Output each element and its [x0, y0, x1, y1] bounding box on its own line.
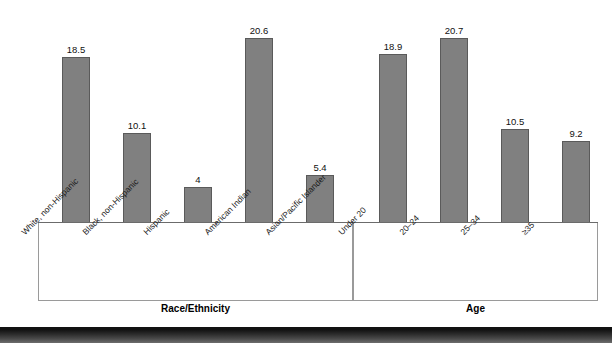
bar-value-label: 9.2 [569, 129, 582, 139]
bar-rect[interactable] [501, 129, 529, 223]
group-title-race-ethnicity: Race/Ethnicity [38, 303, 353, 314]
bar-rect[interactable] [379, 54, 407, 223]
footer-band [0, 329, 612, 343]
bar-rect[interactable] [184, 187, 212, 223]
bar-rect[interactable] [123, 133, 151, 223]
bar-rect[interactable] [440, 38, 468, 223]
bar-rect[interactable] [62, 57, 90, 223]
group-frame-age [353, 223, 598, 301]
bar-value-label: 18.5 [67, 45, 86, 55]
bar-value-label: 5.4 [313, 163, 326, 173]
bar-value-label: 10.5 [506, 117, 525, 127]
bar-value-label: 4 [195, 175, 200, 185]
bar-chart-figure: 18.5 10.1 4 20.6 5.4 18.9 20.7 10.5 [0, 0, 612, 343]
bar-rect[interactable] [562, 141, 590, 223]
bar-value-label: 20.6 [250, 26, 269, 36]
bar-value-label: 18.9 [384, 42, 403, 52]
group-title-age: Age [353, 303, 598, 314]
bar-value-label: 10.1 [128, 121, 147, 131]
bar-value-label: 20.7 [445, 26, 464, 36]
